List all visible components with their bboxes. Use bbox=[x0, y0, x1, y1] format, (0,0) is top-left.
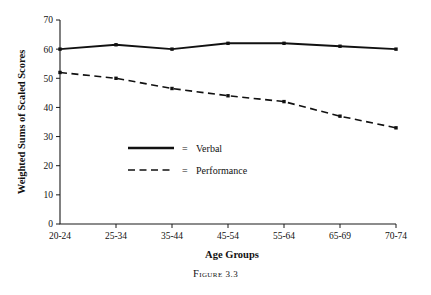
y-tick-label: 0 bbox=[48, 219, 53, 229]
x-tick-label: 45-54 bbox=[217, 231, 239, 241]
data-point-marker bbox=[338, 45, 341, 48]
chart-legend: =Verbal=Performance bbox=[128, 143, 248, 176]
data-point-marker bbox=[282, 100, 285, 103]
figure-container: Weighted Sums of Scaled Scores 010203040… bbox=[0, 0, 431, 295]
y-axis-ticks: 010203040506070 bbox=[44, 15, 61, 229]
legend-label-verbal: Verbal bbox=[196, 143, 222, 154]
y-tick-label: 20 bbox=[44, 161, 54, 171]
data-point-marker bbox=[226, 42, 229, 45]
y-axis-title: Weighted Sums of Scaled Scores bbox=[16, 50, 27, 194]
data-point-marker bbox=[170, 47, 173, 50]
data-point-marker bbox=[170, 87, 173, 90]
legend-equals-sign: = bbox=[182, 143, 188, 154]
figure-caption-word: Figure bbox=[193, 268, 223, 279]
x-axis-ticks: 20-2425-3435-4445-5455-6465-6970-74 bbox=[49, 224, 407, 241]
data-point-marker bbox=[114, 43, 117, 46]
data-point-marker bbox=[226, 94, 229, 97]
y-tick-label: 70 bbox=[44, 15, 54, 25]
y-tick-label: 50 bbox=[44, 74, 54, 84]
data-point-marker bbox=[338, 114, 341, 117]
x-tick-label: 35-44 bbox=[161, 231, 183, 241]
series-line-performance bbox=[60, 72, 396, 127]
data-point-marker bbox=[114, 77, 117, 80]
line-chart: Weighted Sums of Scaled Scores 010203040… bbox=[0, 0, 431, 295]
data-point-marker bbox=[58, 71, 61, 74]
x-tick-label: 65-69 bbox=[329, 231, 351, 241]
data-point-marker bbox=[394, 47, 397, 50]
x-tick-label: 70-74 bbox=[385, 231, 407, 241]
axis-lines bbox=[60, 20, 396, 224]
data-point-marker bbox=[394, 126, 397, 129]
legend-equals-sign: = bbox=[182, 165, 188, 176]
y-axis-title-group: Weighted Sums of Scaled Scores bbox=[16, 50, 27, 194]
data-point-marker bbox=[58, 47, 61, 50]
y-tick-label: 10 bbox=[44, 190, 54, 200]
figure-caption: Figure 3.3 bbox=[0, 268, 431, 279]
x-tick-label: 25-34 bbox=[105, 231, 127, 241]
x-tick-label: 55-64 bbox=[273, 231, 295, 241]
x-axis-title: Age Groups bbox=[205, 249, 259, 260]
legend-label-performance: Performance bbox=[196, 165, 248, 176]
data-markers-group bbox=[58, 42, 397, 130]
y-tick-label: 60 bbox=[44, 45, 54, 55]
x-tick-label: 20-24 bbox=[49, 231, 71, 241]
y-tick-label: 40 bbox=[44, 103, 54, 113]
data-series-group bbox=[60, 43, 396, 128]
figure-caption-number: 3.3 bbox=[226, 269, 238, 279]
data-point-marker bbox=[282, 42, 285, 45]
y-tick-label: 30 bbox=[44, 132, 54, 142]
